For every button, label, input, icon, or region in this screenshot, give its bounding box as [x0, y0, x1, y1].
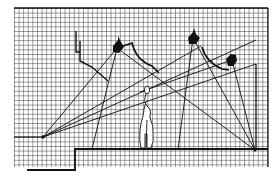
focus-point-left [41, 135, 45, 139]
stage-lighting-diagram [0, 0, 280, 185]
focus-point-right [254, 149, 257, 152]
